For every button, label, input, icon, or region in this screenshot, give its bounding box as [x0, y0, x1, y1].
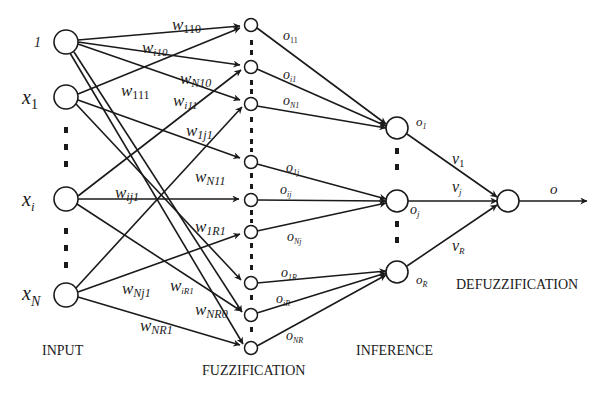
fuzz-output-label: oN1 — [283, 93, 299, 110]
fuzz-node-1j — [245, 156, 258, 169]
edge-w1R1 — [76, 104, 241, 280]
weight-label: wNR1 — [140, 316, 173, 337]
fuzz-node-Nj — [245, 226, 258, 239]
input-label-xi: xi — [21, 188, 35, 214]
weight-label: wN10 — [180, 69, 211, 90]
weight-label: w110 — [172, 15, 201, 36]
input-label-xN: xN — [21, 282, 41, 309]
input-node-x1 — [54, 85, 78, 109]
fuzz-node-11 — [245, 19, 258, 32]
weight-label: wi10 — [142, 38, 168, 58]
fuzz-node-ij — [245, 194, 258, 207]
inference-node-j — [386, 190, 408, 212]
edge-wNj1 — [78, 234, 240, 292]
defuzzification-node — [497, 190, 519, 212]
fuzz-output-label: oij — [280, 182, 292, 199]
output-label: o — [550, 181, 558, 197]
edge-o1R — [257, 271, 386, 283]
fuzz-output-label: oNR — [286, 328, 303, 345]
weight-label: wNR0 — [195, 300, 228, 321]
fuzz-node-N1 — [245, 98, 258, 111]
inference-label-oj: oj — [410, 202, 420, 219]
edge-w1j1 — [78, 100, 240, 158]
caption-defuzzification: DEFUZZIFICATION — [456, 277, 578, 292]
inference-label-oR: oR — [416, 272, 428, 289]
input-label-bias: 1 — [34, 35, 41, 50]
weight-label: wNj1 — [122, 279, 151, 300]
edge-vR — [407, 205, 497, 266]
fuzz-node-iR — [245, 309, 258, 322]
caption-fuzzification: FUZZIFICATION — [202, 363, 305, 378]
fuzz-output-label: o1j — [286, 160, 300, 177]
fuzz-node-1R — [245, 277, 258, 290]
weight-label: wij1 — [115, 183, 139, 204]
weight-label: wi11 — [173, 91, 198, 111]
inference-label-o1: o1 — [416, 114, 427, 131]
fuzz-node-NR — [245, 342, 258, 355]
fuzz-output-label: oNj — [287, 229, 302, 246]
fuzzy-neural-network-diagram: 1 x1 xi xN w110 wi10 wN10 w111 wi11 w1j1… — [0, 0, 611, 396]
edge-wNR1 — [78, 297, 240, 345]
inference-node-1 — [386, 117, 408, 139]
defuzz-weight-v1: v1 — [452, 150, 465, 169]
fuzz-output-labels: o11 oi1 oN1 o1j oij oNj o1R oiR oNR — [276, 28, 303, 345]
fuzz-output-label: o1R — [281, 265, 297, 282]
weight-label: w1j1 — [186, 121, 213, 142]
weight-label: wN11 — [195, 167, 225, 188]
weight-label: w111 — [121, 81, 149, 102]
edge-oNj — [257, 203, 386, 231]
fuzz-node-i1 — [245, 61, 258, 74]
weight-label: wiR1 — [170, 276, 194, 296]
input-node-xN — [54, 283, 78, 307]
edge-oNR — [257, 275, 386, 346]
input-label-x1: x1 — [21, 86, 38, 112]
edge-o1j — [257, 164, 386, 199]
caption-input: INPUT — [42, 343, 84, 358]
inference-node-R — [386, 261, 408, 283]
caption-inference: INFERENCE — [356, 343, 433, 358]
defuzz-weight-vj: vj — [452, 178, 462, 197]
weight-label: w1R1 — [195, 217, 226, 238]
input-node-bias — [54, 30, 78, 54]
defuzz-weight-vR: vR — [452, 237, 465, 256]
fuzz-output-label: oiR — [276, 291, 290, 308]
inference-layer — [386, 117, 408, 283]
edge-oij — [257, 200, 386, 201]
edge-wiR1 — [77, 204, 241, 311]
fuzz-output-label: oi1 — [283, 67, 296, 84]
fuzz-output-label: o11 — [283, 28, 298, 45]
input-node-xi — [54, 187, 78, 211]
